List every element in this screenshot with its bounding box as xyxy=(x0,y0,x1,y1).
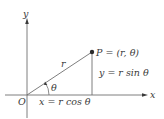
point-p-label: P = (r, θ) xyxy=(96,48,139,58)
x-equation-label: x = r cos θ xyxy=(39,97,91,107)
angle-label: θ xyxy=(51,83,57,93)
y-equation-label: y = r sin θ xyxy=(99,68,149,78)
x-axis-label: x xyxy=(150,90,155,100)
radius-line xyxy=(27,52,92,95)
origin-label: O xyxy=(18,97,26,107)
x-axis-arrow-icon xyxy=(142,93,148,97)
radius-label: r xyxy=(61,59,66,69)
y-axis-label: y xyxy=(23,9,28,19)
point-p-dot xyxy=(90,50,94,54)
